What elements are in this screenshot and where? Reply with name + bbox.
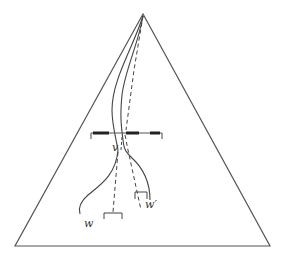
label-w-prime: w′ xyxy=(145,198,157,211)
curve-to-w xyxy=(79,16,143,214)
dashed-path-short xyxy=(121,137,122,150)
bracket-w xyxy=(104,213,122,219)
diagram-canvas: v w w′ xyxy=(0,0,282,263)
label-w: w xyxy=(84,217,94,230)
curve-to-w-prime xyxy=(121,16,150,200)
outer-triangle xyxy=(15,14,270,246)
dashed-path-to-bracket-w-prime xyxy=(125,135,141,210)
label-v: v xyxy=(112,141,119,154)
horizontal-bar xyxy=(91,133,162,139)
dashed-path-apex xyxy=(126,16,143,130)
